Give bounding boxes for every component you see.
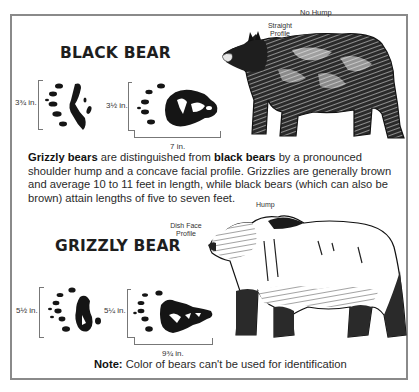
note-label: Note: <box>94 358 123 370</box>
profile-label-line2: Profile <box>166 230 206 238</box>
grizzly-hind-bracket-h <box>134 344 212 345</box>
black-bears-bold: black bears <box>214 151 276 163</box>
black-bear-hind-track <box>135 82 221 132</box>
black-bear-illustration <box>222 30 410 142</box>
bracket-tick <box>220 131 221 138</box>
grizzly-bear-hump-label: Hump <box>256 201 275 209</box>
black-bear-hind-track-width: 3½ in. <box>106 101 128 110</box>
black-bear-hump-label: No Hump <box>300 9 332 17</box>
grizzly-bear-illustration <box>208 211 408 345</box>
note-text: Color of bears can't be used for identif… <box>123 358 347 370</box>
description-paragraph: Grizzly bears are distinguished from bla… <box>28 151 406 205</box>
identification-note: Note: Color of bears can't be used for i… <box>94 358 347 370</box>
grizzly-bear-title: GRIZZLY BEAR <box>55 237 181 255</box>
grizzly-bear-profile-label: Dish Face Profile <box>166 222 206 238</box>
profile-label-line1: Dish Face <box>166 222 206 230</box>
description-text1: are distinguished from <box>98 151 214 163</box>
grizzly-front-track-bracket <box>39 287 44 338</box>
black-bear-front-track-bracket <box>38 80 43 130</box>
grizzly-front-track <box>46 287 102 339</box>
black-bear-title: BLACK BEAR <box>60 44 171 62</box>
black-bear-front-track-length: 3¾ in. <box>15 98 37 107</box>
grizzly-hind-track-length: 9¾ in. <box>162 349 184 358</box>
profile-label-line1: Straight <box>260 22 300 30</box>
grizzly-front-track-length: 5½ in. <box>16 306 38 315</box>
black-bear-hind-bracket-v <box>128 82 129 130</box>
grizzly-hind-bracket-v <box>127 289 128 337</box>
grizzly-hind-track <box>133 289 215 339</box>
bracket-tick <box>127 289 131 290</box>
bracket-tick <box>212 338 213 345</box>
bracket-tick <box>128 82 132 83</box>
grizzly-bears-bold: Grizzly bears <box>28 151 98 163</box>
grizzly-hind-track-width: 5¼ in. <box>104 306 126 315</box>
black-bear-hind-bracket-h <box>134 137 220 138</box>
black-bear-front-track <box>45 80 97 132</box>
black-bear-hind-track-length: 7 in. <box>170 142 185 151</box>
